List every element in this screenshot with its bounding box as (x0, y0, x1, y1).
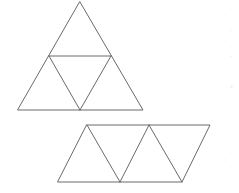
geometry-figure-canvas (0, 0, 239, 193)
strip-divider-2 (120, 125, 149, 182)
inner-triangle-right-edge (80, 56, 111, 110)
inner-triangle-left-edge (49, 56, 80, 110)
figure-triangle-strip (58, 125, 210, 182)
strip-divider-1 (87, 125, 120, 182)
strip-divider-3 (149, 125, 182, 182)
figure-subdivided-triangle (18, 2, 143, 110)
